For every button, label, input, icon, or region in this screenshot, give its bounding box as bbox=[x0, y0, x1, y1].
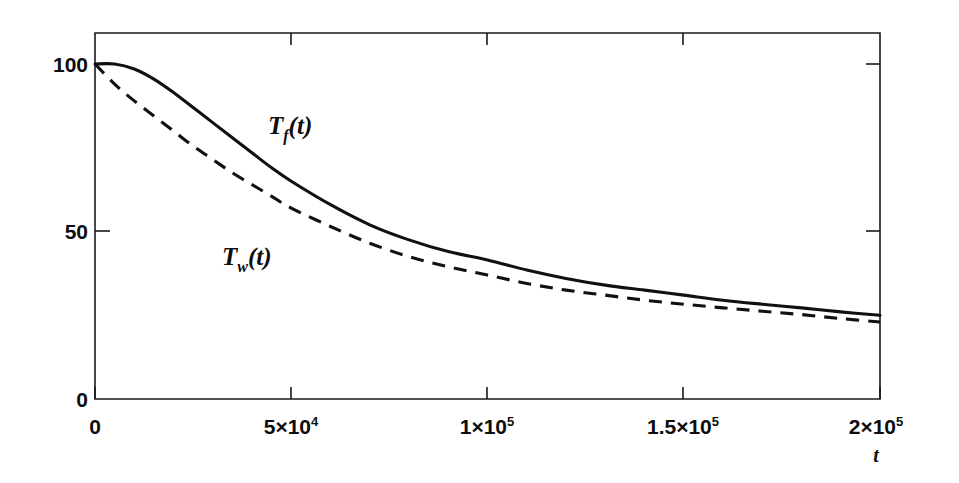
y-axis-ticks bbox=[95, 64, 110, 231]
y-tick-label-50: 50 bbox=[65, 220, 88, 243]
x-axis-label: t bbox=[873, 444, 880, 466]
axis-frame-path bbox=[95, 33, 880, 399]
y-tick-labels: 100 50 0 bbox=[53, 53, 88, 411]
x-axis-top-ticks bbox=[291, 33, 683, 45]
tw-curve-label: Tw(t) bbox=[222, 243, 272, 275]
x-tick-label-5e4: 5×104 bbox=[264, 414, 319, 438]
curve-annotations: Tf(t) Tw(t) bbox=[222, 112, 312, 275]
x-tick-label-1_5e5: 1.5×105 bbox=[647, 414, 719, 438]
y-axis-right-ticks bbox=[866, 64, 880, 231]
tf-curve-label: Tf(t) bbox=[268, 112, 312, 145]
x-tick-labels: 0 5×104 1×105 1.5×105 2×105 bbox=[89, 414, 903, 438]
curve-tw bbox=[95, 64, 880, 322]
plot-frame bbox=[95, 33, 880, 399]
y-tick-label-100: 100 bbox=[53, 53, 88, 76]
curve-tf bbox=[95, 64, 880, 316]
y-tick-label-0: 0 bbox=[76, 388, 88, 411]
figure-canvas: 100 50 0 0 5×104 1×105 1.5×105 2×105 t T… bbox=[0, 0, 959, 483]
x-tick-label-2e5: 2×105 bbox=[849, 414, 904, 438]
data-curves bbox=[95, 64, 880, 322]
x-axis-ticks bbox=[95, 387, 880, 399]
x-tick-label-0: 0 bbox=[89, 415, 101, 438]
x-tick-label-1e5: 1×105 bbox=[460, 414, 515, 438]
chart-plot: 100 50 0 0 5×104 1×105 1.5×105 2×105 t T… bbox=[0, 0, 959, 483]
